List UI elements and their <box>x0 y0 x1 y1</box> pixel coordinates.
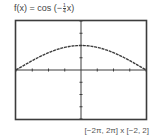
graph-screen <box>0 0 156 139</box>
window-range-label: [−2π, 2π] x [−2, 2] <box>85 126 149 136</box>
